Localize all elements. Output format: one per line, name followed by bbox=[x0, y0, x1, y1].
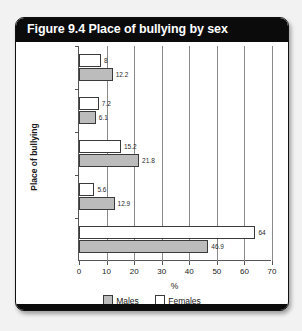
x-axis-tick-label: 60 bbox=[234, 267, 254, 276]
bar-males[interactable] bbox=[79, 154, 139, 167]
x-axis-label: % bbox=[78, 281, 271, 291]
bar-males[interactable] bbox=[79, 68, 113, 81]
x-axis-tick-label: 20 bbox=[124, 267, 144, 276]
x-axis-tick-label: 0 bbox=[69, 267, 89, 276]
bar-females[interactable] bbox=[79, 226, 255, 239]
x-axis-tick-label: 50 bbox=[207, 267, 227, 276]
bar-value-label-males: 46.9 bbox=[211, 240, 224, 253]
bar-value-label-females: 15.2 bbox=[124, 140, 137, 153]
bar-value-label-females: 64 bbox=[258, 226, 265, 239]
figure-title-bar: Figure 9.4 Place of bullying by sex bbox=[16, 18, 288, 42]
y-axis-label: Place of bullying bbox=[29, 117, 39, 197]
bar-group: 15.221.8 bbox=[79, 140, 271, 168]
bar-females[interactable] bbox=[79, 97, 99, 110]
x-axis-tick bbox=[217, 261, 218, 265]
x-axis-tick bbox=[107, 261, 108, 265]
bar-value-label-males: 12.9 bbox=[118, 197, 131, 210]
x-axis-tick bbox=[189, 261, 190, 265]
bar-females[interactable] bbox=[79, 140, 121, 153]
figure-bottom-bar bbox=[16, 304, 288, 310]
bar-group: 7.26.1 bbox=[79, 97, 271, 125]
bar-group: 812.2 bbox=[79, 54, 271, 82]
x-axis-tick bbox=[79, 261, 80, 265]
x-axis-line bbox=[79, 260, 271, 261]
x-axis-tick-label: 70 bbox=[262, 267, 282, 276]
x-axis-tick bbox=[244, 261, 245, 265]
figure-card: Figure 9.4 Place of bullying by sex Plac… bbox=[15, 17, 289, 311]
x-axis-tick-label: 40 bbox=[179, 267, 199, 276]
y-axis-tick bbox=[75, 175, 79, 176]
grid-line bbox=[272, 46, 273, 261]
chart-area: Place of bullying 010203040506070812.2Ne… bbox=[16, 42, 288, 304]
bar-value-label-males: 21.8 bbox=[142, 154, 155, 167]
y-axis-tick bbox=[75, 218, 79, 219]
bar-group: 6446.9 bbox=[79, 226, 271, 254]
bar-males[interactable] bbox=[79, 240, 208, 253]
y-axis-tick bbox=[75, 46, 79, 47]
x-axis-tick bbox=[134, 261, 135, 265]
bar-females[interactable] bbox=[79, 183, 94, 196]
bar-value-label-males: 12.2 bbox=[116, 68, 129, 81]
bar-value-label-females: 8 bbox=[104, 54, 108, 67]
plot-region: 010203040506070812.2Near home7.26.1Work1… bbox=[78, 46, 271, 261]
bar-males[interactable] bbox=[79, 197, 115, 210]
x-axis-tick-label: 30 bbox=[152, 267, 172, 276]
y-axis-tick bbox=[75, 89, 79, 90]
page-title: Figure 9.4 Place of bullying by sex bbox=[27, 22, 228, 36]
x-axis-tick-label: 10 bbox=[97, 267, 117, 276]
bar-value-label-males: 6.1 bbox=[99, 111, 108, 124]
bar-group: 5.612.9 bbox=[79, 183, 271, 211]
y-axis-tick bbox=[75, 132, 79, 133]
bar-value-label-females: 5.6 bbox=[97, 183, 106, 196]
bar-males[interactable] bbox=[79, 111, 96, 124]
bar-value-label-females: 7.2 bbox=[102, 97, 111, 110]
bar-females[interactable] bbox=[79, 54, 101, 67]
x-axis-tick bbox=[272, 261, 273, 265]
x-axis-tick bbox=[162, 261, 163, 265]
